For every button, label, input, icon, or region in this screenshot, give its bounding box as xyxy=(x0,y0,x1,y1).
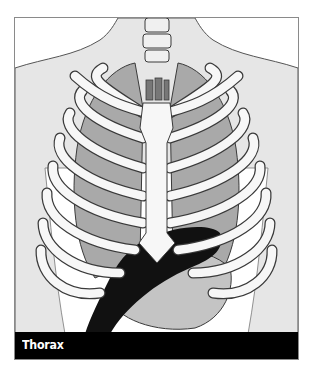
caption-bar: Thorax xyxy=(15,332,298,359)
thorax-figure: Thorax xyxy=(14,17,299,360)
caption-label: Thorax xyxy=(22,337,64,352)
trachea xyxy=(146,78,169,100)
thorax-illustration xyxy=(15,18,298,334)
cervical-spine xyxy=(143,18,171,62)
